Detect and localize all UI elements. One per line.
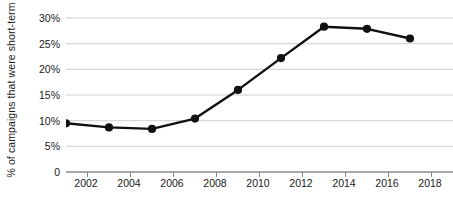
y-axis-tick-labels: 30% 25% 20% 15% 10% 5% 0 xyxy=(16,0,60,203)
x-tick-label: 2012 xyxy=(289,177,312,189)
data-point-2008 xyxy=(191,115,199,123)
data-point-2012 xyxy=(277,54,285,62)
data-markers xyxy=(66,23,414,133)
plot-area xyxy=(66,0,453,203)
y-tick-label: 10% xyxy=(16,115,60,127)
x-tick-label: 2016 xyxy=(375,177,398,189)
x-tick-label: 2014 xyxy=(332,177,355,189)
y-tick-label: 30% xyxy=(16,12,60,24)
y-tick-label: 15% xyxy=(16,89,60,101)
x-tick-label: 2018 xyxy=(418,177,441,189)
data-line xyxy=(66,27,410,129)
y-tick-label: 25% xyxy=(16,38,60,50)
x-tick-label: 2008 xyxy=(203,177,226,189)
data-point-2016 xyxy=(363,25,371,33)
x-tick-label: 2010 xyxy=(246,177,269,189)
data-point-2010 xyxy=(234,86,242,94)
line-chart: % of campaigns that were short-term 30% … xyxy=(0,0,453,203)
y-tick-label: 20% xyxy=(16,63,60,75)
x-tick-label: 2006 xyxy=(160,177,183,189)
x-tick-label: 2004 xyxy=(117,177,140,189)
y-tick-label: 0 xyxy=(16,166,60,178)
data-point-2018 xyxy=(406,34,414,42)
x-tick-label: 2002 xyxy=(74,177,97,189)
data-point-2004 xyxy=(105,123,113,131)
data-point-2014 xyxy=(320,23,328,31)
data-point-2006 xyxy=(148,125,156,133)
y-tick-label: 5% xyxy=(16,140,60,152)
